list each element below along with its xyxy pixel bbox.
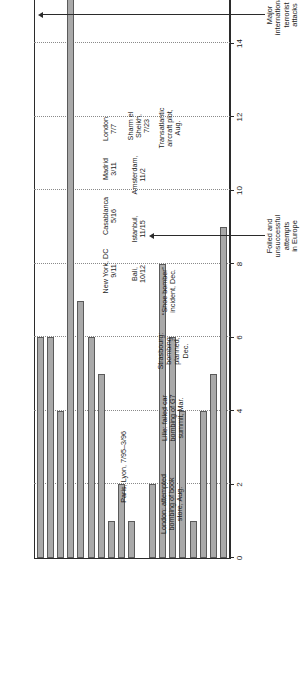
value-tick-label: 10 xyxy=(236,171,244,211)
annotation-casablanca: Casablanca 5/16 xyxy=(102,189,118,243)
value-tick-mark xyxy=(230,264,234,265)
bar-row xyxy=(147,0,157,558)
annotation-istanbul: Istanbul, 11/15 xyxy=(131,205,147,253)
value-tick-label: 8 xyxy=(236,244,244,284)
value-tick-mark xyxy=(230,337,234,338)
value-tick-mark xyxy=(230,411,234,412)
value-tick-label: 14 xyxy=(236,24,244,64)
annotation-transatlantic-plot: Transatlantic aircraft plot, Aug. xyxy=(158,99,183,157)
value-tick-label: 6 xyxy=(236,318,244,358)
annotation-shoe-bomber: “Shoe bomber” incident, Dec. xyxy=(161,261,177,321)
bar-row xyxy=(188,0,198,558)
bar xyxy=(57,411,64,558)
bar xyxy=(210,374,217,558)
bar-row xyxy=(218,0,228,558)
annotation-new-york-dc: New York, DC 9/11 xyxy=(102,241,118,301)
value-tick-mark xyxy=(230,484,234,485)
foiled-arrowhead xyxy=(149,233,154,239)
annotation-london: London 7/7 xyxy=(102,109,118,149)
bar xyxy=(108,521,115,558)
bar xyxy=(97,374,104,558)
bar xyxy=(67,0,74,558)
category-axis-line xyxy=(230,0,231,559)
annotation-paris-lyon: Paris, Lyon, 7/95–3/96 xyxy=(120,431,128,591)
value-tick-mark xyxy=(230,558,234,559)
bar-row xyxy=(65,0,75,558)
annotation-lille-g7: Lille: failed car bombing of G7 summit, … xyxy=(161,385,186,451)
figure-page: 0246810121416 20072006200520042003200220… xyxy=(0,0,305,695)
annotation-sharm-el-sheikh: Sharm el Sheikh, 7/23 xyxy=(127,103,152,149)
value-tick-mark xyxy=(230,117,234,118)
bar xyxy=(46,338,53,559)
bar xyxy=(199,411,206,558)
value-tick-label: 0 xyxy=(236,538,244,578)
figure-caption: Figure 5.2. Islam-related Terrorism in E… xyxy=(276,672,292,695)
bar-row xyxy=(198,0,208,558)
bar xyxy=(148,485,155,559)
bar-row xyxy=(55,0,65,558)
value-tick-mark xyxy=(230,43,234,44)
annotation-amsterdam: Amsterdam, 11/2 xyxy=(131,145,147,205)
annotation-madrid: Madrid 3/11 xyxy=(102,149,118,189)
bar-row xyxy=(35,0,45,558)
value-tick-label: 12 xyxy=(236,97,244,137)
bar-row xyxy=(75,0,85,558)
legend-foiled-attempts: Foiled and unsuccessful attempts in Euro… xyxy=(266,201,300,271)
bar-row xyxy=(208,0,218,558)
bar xyxy=(220,227,227,558)
bar xyxy=(36,338,43,559)
major-attacks-arrowhead xyxy=(38,12,43,18)
rotated-figure-canvas: 0246810121416 20072006200520042003200220… xyxy=(28,0,278,601)
bar-row xyxy=(45,0,55,558)
bar xyxy=(87,338,94,559)
value-tick-label: 4 xyxy=(236,391,244,431)
foiled-leader xyxy=(154,235,265,236)
bar xyxy=(189,521,196,558)
bar xyxy=(77,301,84,558)
value-tick-mark xyxy=(230,190,234,191)
chart-area: 0246810121416 20072006200520042003200220… xyxy=(28,0,278,601)
legend-major-attacks: Major international terrorist attacks xyxy=(266,0,300,50)
bar xyxy=(128,521,135,558)
bar-row xyxy=(86,0,96,558)
annotation-london-bookstore: London: attempted bombing of book store,… xyxy=(160,467,185,541)
annotation-bali: Bali, 10/12 xyxy=(131,253,147,295)
major-attacks-leader xyxy=(43,14,265,15)
annotation-strasbourg: Strasbourg: bombing planned, Dec. xyxy=(157,325,190,377)
value-tick-label: 2 xyxy=(236,465,244,505)
